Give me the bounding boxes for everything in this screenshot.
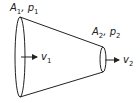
- inlet-area-pressure-label: A1, p1: [10, 3, 39, 16]
- outlet-velocity-label: v2: [123, 55, 133, 68]
- outlet-area-pressure-label: A2, p2: [92, 27, 121, 40]
- pipe-bottom-wall: [20, 72, 103, 97]
- inlet-velocity-label: v1: [41, 52, 51, 65]
- pipe-top-wall: [20, 17, 103, 47]
